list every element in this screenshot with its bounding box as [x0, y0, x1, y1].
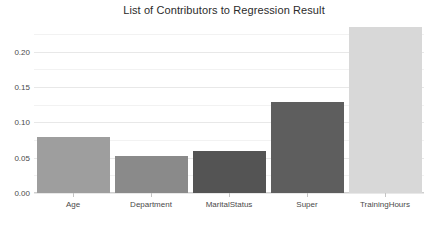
bar-traininghours[interactable] [349, 27, 422, 193]
x-axis-tick-label-traininghours: TrainingHours [360, 200, 410, 209]
chart-title: List of Contributors to Regression Resul… [0, 4, 448, 16]
y-axis-tick-label: 0.10 [0, 118, 30, 127]
x-axis-tick-label-age: Age [66, 200, 80, 209]
x-axis-tick-label-department: Department [130, 200, 172, 209]
x-axis-tick-mark [229, 193, 230, 197]
x-axis-tick-labels: AgeDepartmentMaritalStatusSuperTrainingH… [34, 193, 424, 229]
bar-chart: List of Contributors to Regression Resul… [0, 0, 448, 229]
bar-department[interactable] [115, 156, 188, 193]
bars-group [34, 20, 424, 193]
y-axis-tick-label: 0.20 [0, 47, 30, 56]
x-axis-tick-mark [73, 193, 74, 197]
y-axis-tick-label: 0.05 [0, 153, 30, 162]
x-axis-tick-label-maritalstatus: MaritalStatus [206, 200, 253, 209]
x-axis-tick-label-super: Super [296, 200, 317, 209]
x-axis-tick-mark [307, 193, 308, 197]
x-axis-tick-mark [385, 193, 386, 197]
y-axis-tick-label: 0.15 [0, 83, 30, 92]
y-axis-tick-label: 0.00 [0, 189, 30, 198]
x-axis-tick-mark [151, 193, 152, 197]
bar-super[interactable] [271, 102, 344, 193]
bar-age[interactable] [37, 137, 110, 193]
bar-maritalstatus[interactable] [193, 151, 266, 193]
y-axis-tick-labels: 0.000.050.100.150.20 [0, 20, 34, 193]
